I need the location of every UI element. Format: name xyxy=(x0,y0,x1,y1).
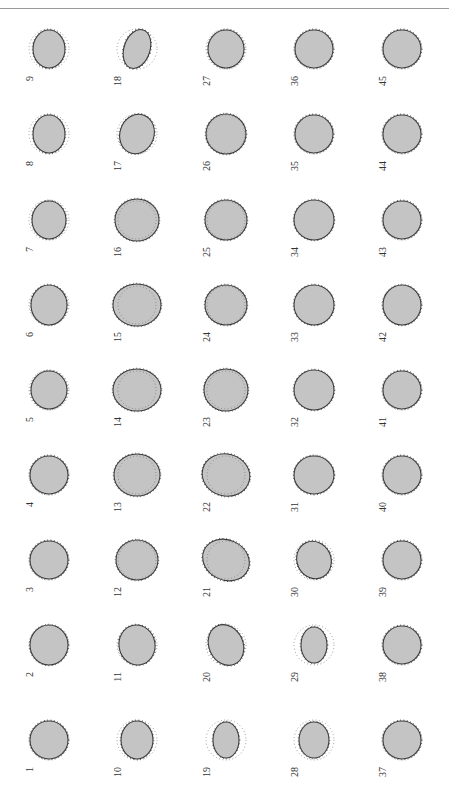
fitted-ellipse xyxy=(116,540,158,580)
panel-number-label: 33 xyxy=(289,332,300,342)
ellipse-panel: 14 xyxy=(112,368,162,427)
panel-number-label: 27 xyxy=(201,76,212,86)
ellipse-panel: 8 xyxy=(24,114,69,166)
panel-number-label: 11 xyxy=(112,672,123,682)
ellipse-panel-grid-figure: 1234567891011121314151617181920212223242… xyxy=(0,0,449,785)
ellipse-panel: 7 xyxy=(24,200,69,252)
fitted-ellipse xyxy=(294,285,334,325)
panel-number-label: 7 xyxy=(24,247,35,252)
ellipse-panel: 3 xyxy=(24,540,69,592)
fitted-ellipse xyxy=(383,541,421,579)
fitted-ellipse xyxy=(294,456,334,494)
panel-number-label: 2 xyxy=(24,672,35,677)
panel-number-label: 30 xyxy=(289,587,300,597)
fitted-ellipse xyxy=(294,370,334,410)
ellipse-panel: 2 xyxy=(24,624,69,677)
fitted-ellipse xyxy=(291,536,338,585)
fitted-ellipse xyxy=(30,541,68,579)
ellipse-panel: 37 xyxy=(377,720,422,777)
panel-number-label: 26 xyxy=(201,161,212,171)
fitted-ellipse xyxy=(383,30,421,68)
panel-number-label: 12 xyxy=(112,587,123,597)
panel-number-label: 29 xyxy=(289,672,300,682)
ellipse-panel: 30 xyxy=(289,535,339,597)
ellipse-panel: 31 xyxy=(289,455,335,512)
ellipse-panel: 12 xyxy=(112,539,159,597)
panel-number-label: 43 xyxy=(377,247,388,257)
fitted-ellipse xyxy=(30,721,68,759)
ellipse-panel: 27 xyxy=(201,29,246,86)
ellipse-panel: 28 xyxy=(289,720,334,777)
panel-number-label: 42 xyxy=(377,332,388,342)
ellipse-panel: 20 xyxy=(201,618,252,682)
fitted-ellipse xyxy=(116,622,158,668)
panel-number-label: 25 xyxy=(201,247,212,257)
fitted-ellipse xyxy=(30,456,68,494)
fitted-ellipse xyxy=(113,369,161,411)
fitted-ellipse xyxy=(383,721,421,759)
panel-number-label: 45 xyxy=(377,76,388,86)
panel-number-label: 34 xyxy=(289,247,300,257)
fitted-ellipse xyxy=(31,371,67,409)
fitted-ellipse xyxy=(202,619,251,671)
panel-number-label: 22 xyxy=(201,502,212,512)
panel-number-label: 19 xyxy=(201,767,212,777)
panel-number-label: 9 xyxy=(24,76,35,81)
fitted-ellipse xyxy=(118,26,155,72)
ellipse-panel: 6 xyxy=(24,284,69,337)
fitted-ellipse xyxy=(299,722,329,758)
panel-number-label: 36 xyxy=(289,76,300,86)
ellipse-panel: 35 xyxy=(289,114,334,171)
panel-number-label: 18 xyxy=(112,76,123,86)
panel-number-label: 13 xyxy=(112,502,123,512)
ellipse-panel: 34 xyxy=(289,199,335,257)
ellipse-panel: 24 xyxy=(201,284,248,342)
ellipse-panel: 43 xyxy=(377,200,422,257)
panel-number-label: 3 xyxy=(24,587,35,592)
fitted-ellipse xyxy=(213,722,239,758)
ellipse-panel: 16 xyxy=(112,198,160,257)
panel-number-label: 15 xyxy=(112,332,123,342)
ellipse-panel: 18 xyxy=(112,25,157,86)
fitted-ellipse xyxy=(32,201,66,239)
fitted-ellipse xyxy=(196,532,256,589)
ellipse-panel: 1 xyxy=(24,720,69,772)
panel-number-label: 28 xyxy=(289,767,300,777)
fitted-ellipse xyxy=(295,30,333,68)
fitted-ellipse xyxy=(33,30,65,68)
ellipse-panel: 42 xyxy=(377,284,422,342)
fitted-ellipse xyxy=(115,199,159,241)
fitted-ellipse xyxy=(383,371,421,409)
panel-number-label: 5 xyxy=(24,417,35,422)
fitted-ellipse xyxy=(383,456,421,494)
ellipse-panel: 23 xyxy=(201,368,249,427)
ellipse-panel: 36 xyxy=(289,29,334,86)
panel-number-label: 4 xyxy=(24,502,35,507)
panel-number-label: 37 xyxy=(377,767,388,777)
fitted-ellipse xyxy=(383,285,421,325)
ellipse-panel: 41 xyxy=(377,370,422,427)
ellipse-panel: 11 xyxy=(112,621,159,681)
ellipse-panel: 10 xyxy=(112,720,157,777)
fitted-ellipse xyxy=(205,285,247,325)
ellipse-panel: 5 xyxy=(24,370,69,422)
fitted-ellipse xyxy=(114,454,160,496)
fitted-ellipse xyxy=(294,200,334,240)
panel-number-label: 32 xyxy=(289,417,300,427)
panel-number-label: 24 xyxy=(201,332,212,342)
fitted-ellipse xyxy=(31,285,67,325)
ellipse-panel: 29 xyxy=(289,625,334,682)
ellipse-panel: 25 xyxy=(201,199,248,257)
fitted-ellipse xyxy=(383,201,421,239)
fitted-ellipse xyxy=(197,449,254,502)
ellipse-panel: 44 xyxy=(377,114,422,171)
panel-number-label: 14 xyxy=(112,417,123,427)
ellipse-panel: 22 xyxy=(196,448,255,512)
panel-number-label: 39 xyxy=(377,587,388,597)
panel-number-label: 16 xyxy=(112,247,123,257)
ellipse-panel: 40 xyxy=(377,455,422,512)
ellipse-panel: 4 xyxy=(24,455,69,507)
panel-number-label: 40 xyxy=(377,502,388,512)
ellipse-panel: 13 xyxy=(112,453,161,512)
ellipse-panel: 15 xyxy=(112,283,162,342)
